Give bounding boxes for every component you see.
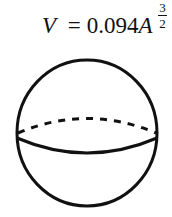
equator-front-solid (17, 138, 157, 153)
equator-back-dashed (18, 119, 156, 134)
sphere-diagram (0, 0, 172, 217)
sphere-outline (17, 60, 157, 206)
